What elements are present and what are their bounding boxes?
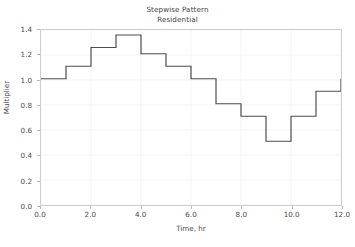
chart-title: Stepwise Pattern <box>0 5 355 15</box>
x-tick-label: 12.0 <box>334 210 350 219</box>
x-tick-mark <box>141 206 142 209</box>
y-tick-label: 0.6 <box>21 126 32 135</box>
plot-area <box>40 29 342 206</box>
x-tick-label: 2.0 <box>85 210 96 219</box>
x-tick-mark <box>342 206 343 209</box>
step-series-line <box>41 30 341 205</box>
y-tick-label: 0.0 <box>21 202 32 211</box>
chart-title-block: Stepwise Pattern Residential <box>0 5 355 24</box>
x-tick-label: 0.0 <box>34 210 45 219</box>
series-path <box>41 35 341 141</box>
y-tick-label: 1.4 <box>21 25 32 34</box>
y-tick-label: 1.0 <box>21 75 32 84</box>
x-tick-label: 4.0 <box>135 210 146 219</box>
x-tick-label: 10.0 <box>284 210 300 219</box>
y-tick-label: 1.2 <box>21 50 32 59</box>
x-tick-mark <box>241 206 242 209</box>
x-tick-mark <box>90 206 91 209</box>
y-tick-label: 0.4 <box>21 151 32 160</box>
x-tick-mark <box>191 206 192 209</box>
x-axis-label: Time, hr <box>40 224 342 233</box>
y-axis-label: Multiplier <box>2 58 11 138</box>
y-tick-label: 0.8 <box>21 100 32 109</box>
x-tick-mark <box>40 206 41 209</box>
x-tick-label: 6.0 <box>185 210 196 219</box>
chart-subtitle: Residential <box>0 15 355 25</box>
x-tick-mark <box>292 206 293 209</box>
y-tick-label: 0.2 <box>21 176 32 185</box>
x-tick-label: 8.0 <box>236 210 247 219</box>
x-axis-tick-labels: 0.02.04.06.08.010.012.0 <box>40 210 342 222</box>
chart-figure: Stepwise Pattern Residential 0.00.20.40.… <box>0 0 355 247</box>
